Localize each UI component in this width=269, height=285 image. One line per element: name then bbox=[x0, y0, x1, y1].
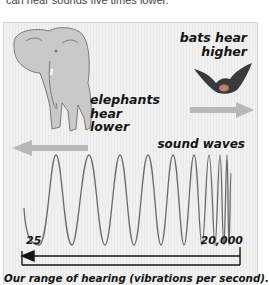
bats-label-line2: higher bbox=[180, 45, 247, 59]
range-high-value: 20,000 bbox=[201, 234, 243, 247]
arrow-right-icon bbox=[190, 102, 254, 118]
elephants-label-line3: lower bbox=[90, 120, 160, 134]
elephants-label-line1: elephants bbox=[90, 93, 160, 107]
bats-label-line1: bats hear bbox=[180, 31, 247, 45]
intro-text: can hear sounds five times lower. bbox=[6, 0, 169, 6]
sound-waves-label: sound waves bbox=[157, 138, 245, 151]
range-arrow-icon bbox=[22, 247, 240, 265]
elephant-illustration bbox=[14, 28, 91, 131]
elephants-hear-lower-label: elephants hear lower bbox=[90, 93, 160, 134]
bats-hear-higher-label: bats hear higher bbox=[180, 31, 247, 58]
elephants-label-line2: hear bbox=[90, 107, 160, 121]
diagram-caption: Our range of hearing (vibrations per sec… bbox=[4, 272, 257, 284]
hearing-range-diagram: bats hear higher elephants hear lower so… bbox=[3, 22, 258, 285]
arrow-left-icon bbox=[12, 140, 88, 156]
bat-illustration bbox=[194, 63, 252, 94]
range-low-value: 25 bbox=[26, 234, 41, 247]
sound-wave bbox=[24, 155, 231, 245]
